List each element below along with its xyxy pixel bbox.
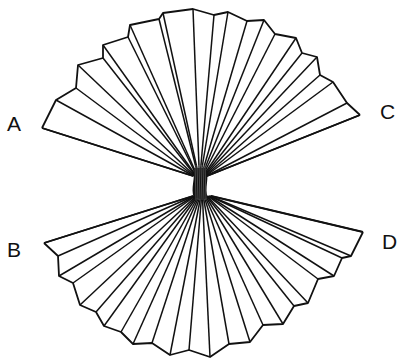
label-c: C (380, 101, 395, 122)
label-d: D (382, 231, 397, 252)
label-a: A (7, 113, 21, 134)
lower-fan (44, 196, 363, 357)
fan-diagram: A B C D (0, 0, 408, 361)
folded-fan-drawing (0, 0, 408, 361)
label-b: B (7, 239, 21, 260)
pinched-center (193, 165, 208, 200)
upper-fan (42, 9, 360, 176)
